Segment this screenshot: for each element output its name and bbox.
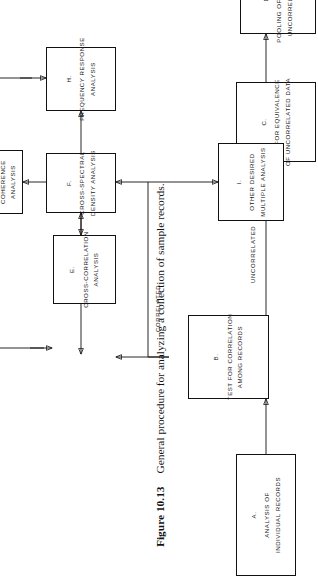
node-e-line2: ANALYSIS <box>91 253 102 287</box>
node-h-tag: H. <box>64 75 75 82</box>
node-b[interactable]: B. TEST FOR CORRELATION AMONG RECORDS <box>188 315 269 399</box>
node-h-line1: FREQUENCY RESPONSE <box>77 37 88 121</box>
node-i-tag: I. <box>234 180 245 184</box>
edge-label-uncorrelated: UNCORRELATED <box>250 226 256 283</box>
node-i-line1: OTHER DESIRED <box>247 153 258 210</box>
node-a-line2: INDIVIDUAL RECORDS <box>273 477 284 553</box>
figure-caption-text: General procedure for analyzing a collec… <box>154 183 166 473</box>
node-c-tag: C. <box>259 118 270 125</box>
node-f[interactable]: F. CROSS-SPECTRAL DENSITY ANALYSIS <box>46 153 116 213</box>
node-g[interactable]: G. COHERENCE ANALYSIS <box>0 150 23 214</box>
node-d-line2: UNCORRELATED DATA <box>285 0 296 36</box>
node-f-tag: F. <box>64 180 75 186</box>
figure-page: A. ANALYSIS OF INDIVIDUAL RECORDS B. TES… <box>0 0 318 582</box>
figure-number: Figure 10.13 <box>154 486 166 547</box>
node-a-line1: ANALYSIS OF <box>262 492 273 538</box>
node-d[interactable]: D. POOLING OF EQUIVALENT UNCORRELATED DA… <box>240 0 316 34</box>
node-b-line2: AMONG RECORDS <box>235 326 246 388</box>
node-f-line1: CROSS-SPECTRAL <box>77 151 88 215</box>
edge-g-to-h-path <box>0 78 32 150</box>
node-d-line1: POOLING OF EQUIVALENT <box>274 0 285 43</box>
node-g-line1: COHERENCE <box>0 160 8 204</box>
node-e[interactable]: E. CROSS-CORRELATION ANALYSIS <box>53 235 116 304</box>
node-h-line2: ANALYSIS <box>88 62 99 96</box>
node-b-tag: B. <box>211 354 222 361</box>
node-c-line2: OF UNCORRELATED DATA <box>283 78 294 166</box>
node-h[interactable]: H. FREQUENCY RESPONSE ANALYSIS <box>46 47 116 111</box>
node-d-tag: D. <box>261 0 272 2</box>
edge-g-to-b-path <box>0 214 44 348</box>
node-g-line2: ANALYSIS <box>8 165 19 199</box>
node-b-line1: TEST FOR CORRELATION <box>225 314 236 400</box>
node-a-tag: A. <box>249 512 260 519</box>
node-i[interactable]: I. OTHER DESIRED MULTIPLE ANALYSIS <box>218 143 284 221</box>
node-e-line1: CROSS-CORRELATION <box>81 231 92 308</box>
node-a[interactable]: A. ANALYSIS OF INDIVIDUAL RECORDS <box>236 454 296 576</box>
node-i-line2: MULTIPLE ANALYSIS <box>258 147 269 216</box>
figure-caption: Figure 10.13General procedure for analyz… <box>154 11 166 547</box>
node-e-tag: E. <box>67 266 78 273</box>
node-f-line2: DENSITY ANALYSIS <box>88 150 99 216</box>
